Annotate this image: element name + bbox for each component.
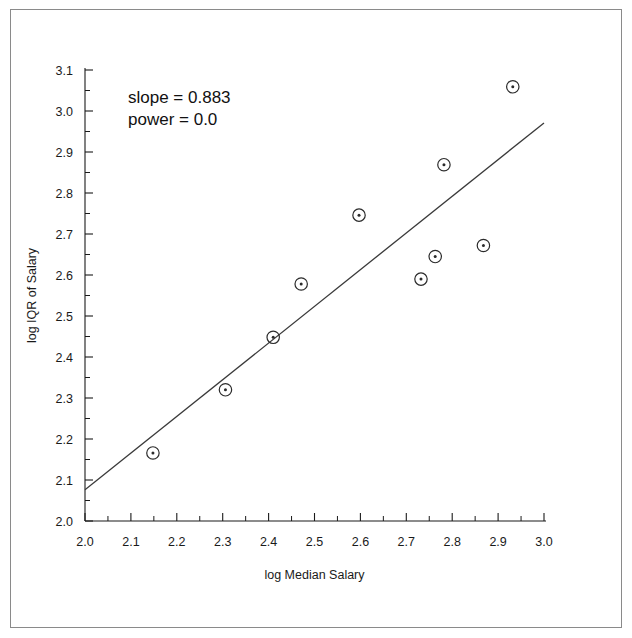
data-point-center bbox=[300, 283, 303, 286]
data-point-center bbox=[442, 163, 445, 166]
x-tick-label: 2.2 bbox=[168, 535, 185, 549]
y-tick-label: 3.0 bbox=[56, 105, 73, 119]
data-point bbox=[477, 239, 489, 251]
y-tick-label: 2.3 bbox=[56, 392, 73, 406]
data-point bbox=[267, 331, 279, 343]
x-tick-label: 2.9 bbox=[489, 535, 506, 549]
y-tick-label: 2.0 bbox=[56, 515, 73, 529]
y-tick-label: 2.9 bbox=[56, 146, 73, 160]
slope-annotation: slope = 0.883 bbox=[128, 88, 231, 107]
scatter-plot: 2.02.12.22.32.42.52.62.72.82.93.02.02.12… bbox=[0, 0, 632, 638]
power-annotation: power = 0.0 bbox=[128, 110, 217, 129]
y-tick-label: 2.1 bbox=[56, 474, 73, 488]
data-point-center bbox=[224, 388, 227, 391]
x-tick-label: 3.0 bbox=[535, 535, 552, 549]
y-tick-label: 2.8 bbox=[56, 187, 73, 201]
figure-container: 2.02.12.22.32.42.52.62.72.82.93.02.02.12… bbox=[0, 0, 632, 638]
data-point bbox=[147, 447, 159, 459]
data-point-center bbox=[419, 278, 422, 281]
data-point bbox=[219, 384, 231, 396]
x-tick-label: 2.5 bbox=[306, 535, 323, 549]
data-point bbox=[438, 159, 450, 171]
y-tick-label: 2.4 bbox=[56, 351, 73, 365]
x-tick-label: 2.7 bbox=[398, 535, 415, 549]
data-point-center bbox=[482, 244, 485, 247]
data-point-center bbox=[511, 85, 514, 88]
y-tick-label: 3.1 bbox=[56, 64, 73, 78]
x-tick-label: 2.3 bbox=[214, 535, 231, 549]
data-point bbox=[295, 278, 307, 290]
x-tick-label: 2.8 bbox=[444, 535, 461, 549]
annotation-block: slope = 0.883power = 0.0 bbox=[128, 88, 231, 129]
x-axis-title: log Median Salary bbox=[264, 568, 365, 582]
fit-line-segment bbox=[85, 123, 544, 490]
y-tick-label: 2.6 bbox=[56, 269, 73, 283]
data-point bbox=[415, 273, 427, 285]
y-tick-label: 2.2 bbox=[56, 433, 73, 447]
x-tick-label: 2.1 bbox=[122, 535, 139, 549]
data-point-center bbox=[272, 336, 275, 339]
data-point bbox=[353, 209, 365, 221]
data-points bbox=[147, 81, 519, 460]
x-tick-label: 2.4 bbox=[260, 535, 277, 549]
data-point bbox=[429, 250, 441, 262]
axis-labels: 2.02.12.22.32.42.52.62.72.82.93.02.02.12… bbox=[25, 64, 553, 583]
x-tick-label: 2.6 bbox=[352, 535, 369, 549]
data-point-center bbox=[151, 451, 154, 454]
regression-line bbox=[85, 123, 544, 490]
y-tick-label: 2.7 bbox=[56, 228, 73, 242]
y-axis-title: log IQR of Salary bbox=[25, 247, 39, 343]
y-tick-label: 2.5 bbox=[56, 310, 73, 324]
x-tick-label: 2.0 bbox=[76, 535, 93, 549]
data-point-center bbox=[358, 214, 361, 217]
data-point-center bbox=[434, 255, 437, 258]
data-point bbox=[507, 81, 519, 93]
